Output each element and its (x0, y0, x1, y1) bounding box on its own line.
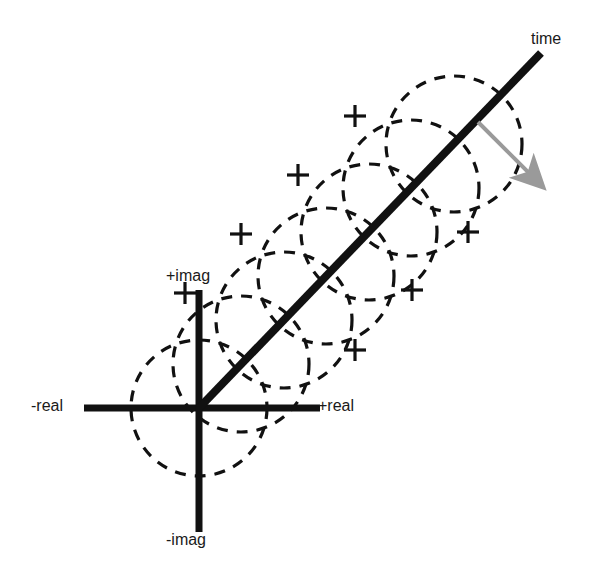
time-axis-label: time (531, 31, 561, 47)
negative-imaginary-label: -imag (166, 532, 206, 548)
positive-imaginary-label: +imag (166, 268, 210, 284)
circle-center-crosshair (174, 282, 196, 304)
figure-canvas: time +imag -imag +real -real (0, 0, 598, 575)
crosshair-marker-group (174, 105, 479, 361)
circle-center-crosshair (287, 164, 309, 186)
phasor-radius-arrow (478, 122, 541, 185)
circle-center-crosshair (230, 223, 252, 245)
circle-center-crosshair (457, 221, 479, 243)
time-axis (199, 53, 541, 408)
circle-center-crosshair (344, 105, 366, 127)
positive-real-label: +real (318, 398, 354, 414)
phasor-helix-diagram (0, 0, 598, 575)
circle-center-crosshair (401, 279, 423, 301)
negative-real-label: -real (31, 398, 63, 414)
